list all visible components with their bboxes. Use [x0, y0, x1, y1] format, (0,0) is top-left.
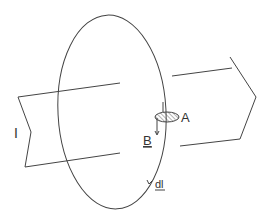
area-label: A — [181, 110, 190, 125]
wire-left-end — [18, 83, 120, 167]
ampere-law-diagram: I A B dl — [0, 0, 270, 219]
current-label: I — [14, 125, 18, 141]
amperian-loop — [53, 12, 171, 211]
line-element-label: dl — [155, 178, 164, 190]
field-label: B — [143, 133, 152, 148]
wire-right-end — [172, 57, 256, 146]
area-element-a — [155, 112, 179, 122]
